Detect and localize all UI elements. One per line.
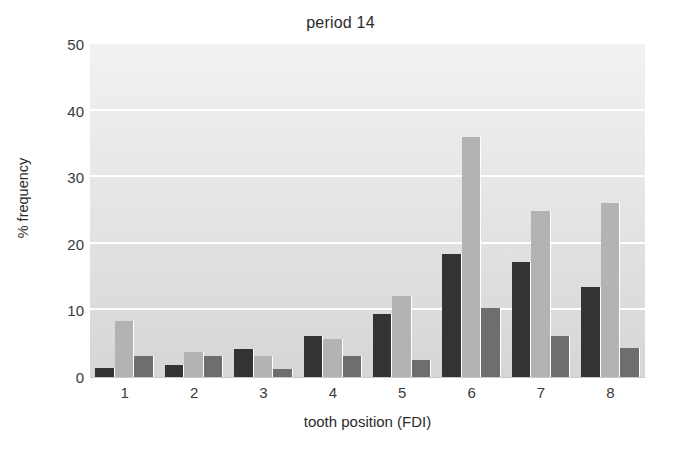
bar-4-series-3[interactable]: [343, 356, 363, 377]
chart-figure: period 14 % frequency 01020304050 123456…: [0, 0, 681, 453]
bar-3-series-2[interactable]: [254, 356, 274, 377]
bar-5-series-3[interactable]: [412, 360, 432, 377]
bar-group-6: [442, 44, 501, 377]
chart-title: period 14: [0, 14, 681, 32]
plot-area: [90, 44, 645, 377]
bar-6-series-3[interactable]: [481, 308, 501, 377]
y-tick-label-50: 50: [50, 37, 84, 52]
bar-group-1: [95, 44, 154, 377]
bar-group-7: [512, 44, 571, 377]
x-tick-label-2: 2: [190, 385, 198, 400]
bar-8-series-2[interactable]: [601, 203, 621, 377]
bar-8-series-3[interactable]: [620, 348, 640, 377]
y-tick-label-20: 20: [50, 237, 84, 252]
bar-5-series-1[interactable]: [373, 314, 393, 377]
x-axis-label: tooth position (FDI): [90, 413, 645, 430]
bar-2-series-3[interactable]: [204, 356, 224, 377]
y-axis-label: % frequency: [15, 118, 31, 278]
x-tick-label-1: 1: [121, 385, 129, 400]
y-tick-label-10: 10: [50, 303, 84, 318]
bar-6-series-2[interactable]: [462, 137, 482, 377]
bar-group-4: [304, 44, 363, 377]
bar-1-series-2[interactable]: [115, 321, 135, 377]
x-tick-label-6: 6: [467, 385, 475, 400]
x-tick-label-8: 8: [606, 385, 614, 400]
bar-1-series-3[interactable]: [134, 356, 154, 377]
x-axis-baseline: [90, 377, 645, 378]
y-axis-ticks: 01020304050: [44, 0, 84, 453]
bar-8-series-1[interactable]: [581, 287, 601, 377]
bar-group-2: [165, 44, 224, 377]
bar-6-series-1[interactable]: [442, 254, 462, 377]
y-tick-label-0: 0: [50, 370, 84, 385]
x-tick-label-3: 3: [259, 385, 267, 400]
bar-3-series-1[interactable]: [234, 349, 254, 377]
y-tick-label-40: 40: [50, 104, 84, 119]
bar-1-series-1[interactable]: [95, 368, 115, 377]
bar-2-series-1[interactable]: [165, 365, 185, 377]
y-tick-label-30: 30: [50, 170, 84, 185]
bar-4-series-1[interactable]: [304, 336, 324, 377]
bar-group-8: [581, 44, 640, 377]
bar-5-series-2[interactable]: [392, 296, 412, 377]
bar-4-series-2[interactable]: [323, 339, 343, 377]
bar-7-series-3[interactable]: [551, 336, 571, 377]
x-tick-label-7: 7: [537, 385, 545, 400]
bar-7-series-2[interactable]: [531, 211, 551, 377]
bar-group-3: [234, 44, 293, 377]
bar-7-series-1[interactable]: [512, 262, 532, 377]
bar-2-series-2[interactable]: [184, 352, 204, 377]
x-tick-label-4: 4: [329, 385, 337, 400]
bar-group-5: [373, 44, 432, 377]
bar-3-series-3[interactable]: [273, 369, 293, 377]
x-tick-label-5: 5: [398, 385, 406, 400]
